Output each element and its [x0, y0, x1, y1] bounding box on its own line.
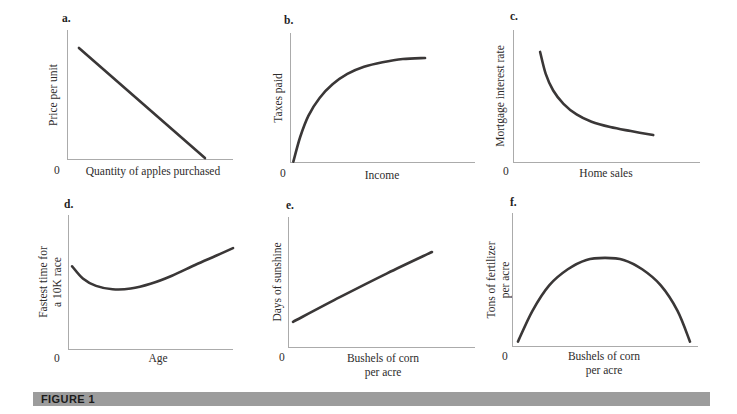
panel-a-curve — [79, 48, 205, 158]
figure-caption-bar: FIGURE 1 — [33, 392, 710, 406]
panel-c-letter: c. — [510, 10, 518, 22]
panel-a-ylabel: Price per unit — [46, 64, 60, 126]
panel-f-xlabel: Bushels of corn per acre — [568, 349, 640, 378]
panel-f-plot — [512, 213, 698, 347]
panel-a-letter: a. — [62, 12, 71, 24]
panel-e-plot — [288, 217, 475, 348]
panel-b-origin: 0 — [280, 167, 286, 179]
panel-d-curve — [72, 248, 233, 289]
panel-d-letter: d. — [64, 198, 73, 210]
panel-c-xlabel: Home sales — [579, 166, 632, 180]
figure-caption-label: FIGURE 1 — [33, 394, 95, 405]
panel-a-origin: 0 — [54, 164, 60, 176]
panel-d-ylabel: Fastest time for a 10K race — [36, 246, 65, 318]
panel-b-xlabel: Income — [365, 168, 399, 182]
panel-e-xlabel: Bushels of corn per acre — [347, 351, 419, 380]
panel-c-curve — [540, 52, 653, 135]
panel-e-origin: 0 — [279, 351, 285, 363]
panel-b-ylabel: Taxes paid — [271, 73, 285, 122]
panel-d-plot — [68, 215, 233, 350]
panel-e-curve — [293, 252, 432, 322]
panel-b-plot — [290, 33, 475, 163]
panel-f-ylabel: Tons of fertilizer per acre — [484, 241, 513, 318]
panel-b-curve — [293, 58, 425, 162]
figure-1: a. Price per unit 0 Quantity of apples p… — [0, 0, 737, 414]
panel-f-curve — [518, 258, 690, 342]
panel-f-origin: 0 — [502, 350, 508, 362]
panel-f-letter: f. — [510, 196, 517, 208]
panel-c-plot — [513, 30, 700, 163]
panel-a-xlabel: Quantity of apples purchased — [86, 164, 220, 178]
panel-a-plot — [67, 30, 233, 160]
panel-c-ylabel: Mortgage interest rate — [493, 45, 507, 147]
panel-c-origin: 0 — [503, 165, 509, 177]
panel-b-letter: b. — [284, 14, 293, 26]
panel-d-origin: 0 — [54, 352, 60, 364]
panel-e-letter: e. — [286, 199, 294, 211]
panel-e-ylabel: Days of sunshine — [270, 242, 284, 321]
panel-d-xlabel: Age — [148, 351, 167, 365]
